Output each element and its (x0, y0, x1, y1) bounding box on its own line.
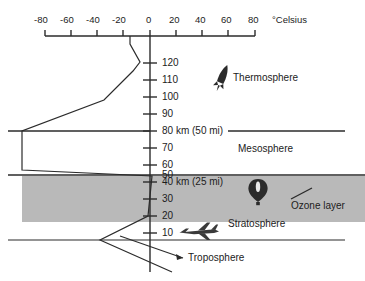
y-tick-label-80: 80 km (50 mi) (162, 126, 223, 136)
y-tick-label-120: 120 (162, 58, 179, 68)
atmosphere-diagram: -80 -60 -40 -20 0 20 40 60 80 °Celsius 1… (0, 0, 365, 281)
x-tick-label-0: -80 (34, 15, 48, 25)
x-tick-label-7: 60 (221, 15, 232, 25)
layer-label-thermosphere: Thermosphere (233, 73, 298, 83)
y-tick-label-70: 70 (162, 143, 173, 153)
layer-label-troposphere: Troposphere (188, 253, 244, 263)
y-tick-label-30: 30 (162, 194, 173, 204)
y-tick-label-40: 40 km (25 mi) (162, 177, 223, 187)
x-tick-label-3: -20 (112, 15, 126, 25)
x-tick-label-5: 20 (169, 15, 180, 25)
x-tick-label-8: 80 (248, 15, 259, 25)
diagram-graphics (0, 0, 365, 281)
x-axis-ticks (45, 30, 255, 36)
y-tick-label-90: 90 (162, 109, 173, 119)
y-tick-label-10: 10 (162, 228, 173, 238)
layer-label-mesosphere: Mesosphere (238, 144, 293, 154)
airplane-icon (179, 223, 219, 240)
x-tick-label-1: -60 (60, 15, 74, 25)
y-tick-label-110: 110 (162, 75, 178, 85)
x-tick-label-4: 0 (146, 15, 151, 25)
x-tick-label-6: 40 (195, 15, 206, 25)
y-tick-label-20: 20 (162, 211, 173, 221)
y-tick-label-100: 100 (162, 92, 179, 102)
layer-label-stratosphere: Stratosphere (228, 219, 285, 229)
x-axis-unit-label: °Celsius (272, 15, 307, 25)
x-tick-label-2: -40 (86, 15, 100, 25)
annotation-ozone-layer: Ozone layer (291, 201, 345, 211)
rocket-icon (212, 63, 233, 93)
